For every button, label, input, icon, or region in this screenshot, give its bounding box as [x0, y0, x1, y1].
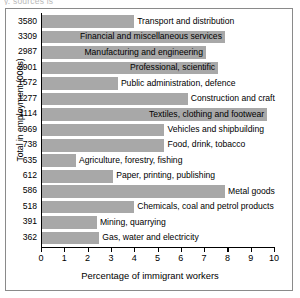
bar-row: 362Gas, water and electricity — [41, 230, 274, 245]
y-tick-label: 1572 — [18, 76, 37, 88]
bar — [41, 232, 99, 245]
y-tick-label: 391 — [23, 215, 37, 227]
bar — [41, 185, 225, 198]
bar-label: Food, drink, tobacco — [167, 138, 245, 151]
bar — [41, 93, 188, 106]
x-tick-mark — [274, 247, 275, 252]
figure: y. sources is Total in employment (000s)… — [0, 0, 300, 298]
y-tick-label: 586 — [23, 184, 37, 196]
x-tick-mark — [88, 247, 89, 252]
x-tick-label: 2 — [85, 253, 90, 263]
bar — [41, 15, 134, 28]
bar-label: Manufacturing and engineering — [84, 46, 203, 59]
y-axis-line — [41, 13, 42, 247]
plot-area: 3580Transport and distribution3309Financ… — [41, 14, 274, 246]
bar — [41, 216, 97, 229]
y-tick-label: 1277 — [18, 92, 37, 104]
bar — [41, 139, 164, 152]
bar-row: 391Mining, quarrying — [41, 215, 274, 230]
y-tick-label: 3309 — [18, 30, 37, 42]
x-tick-mark — [111, 247, 112, 252]
bar-label: Transport and distribution — [137, 15, 234, 28]
bar-label: Construction and craft — [191, 92, 275, 105]
bar-row: 3580Transport and distribution — [41, 14, 274, 29]
y-tick-label: 362 — [23, 231, 37, 243]
bar-label: Public administration, defence — [121, 77, 236, 90]
bar-row: 612Paper, printing, publishing — [41, 169, 274, 184]
x-axis-title: Percentage of immigrant workers — [0, 270, 300, 281]
x-tick-label: 7 — [202, 253, 207, 263]
bar-label: Mining, quarrying — [100, 216, 166, 229]
bar-label: Textiles, clothing and footwear — [149, 108, 264, 121]
bar-row: 635Agriculture, forestry, fishing — [41, 153, 274, 168]
bar-row: 969Vehicles and shipbuilding — [41, 122, 274, 137]
y-tick-label: 3580 — [18, 15, 37, 27]
x-tick-label: 6 — [178, 253, 183, 263]
x-tick-label: 3 — [108, 253, 113, 263]
bar-row: 1277Construction and craft — [41, 91, 274, 106]
bar-row: 1572Public administration, defence — [41, 76, 274, 91]
x-tick-label: 0 — [38, 253, 43, 263]
y-tick-label: 969 — [23, 123, 37, 135]
y-tick-label: 2987 — [18, 45, 37, 57]
x-tick-label: 8 — [225, 253, 230, 263]
x-tick-mark — [134, 247, 135, 252]
x-tick-label: 9 — [248, 253, 253, 263]
bar — [41, 77, 118, 90]
y-tick-label: 2901 — [18, 61, 37, 73]
bar-label: Chemicals, coal and petrol products — [137, 200, 274, 213]
bar-row: 518Chemicals, coal and petrol products — [41, 199, 274, 214]
bar-label: Vehicles and shipbuilding — [167, 123, 264, 136]
bar-label: Professional, scientific — [130, 61, 215, 74]
bar-row: 586Metal goods — [41, 184, 274, 199]
y-tick-label: 1114 — [19, 107, 37, 119]
x-tick-mark — [204, 247, 205, 252]
x-tick-mark — [181, 247, 182, 252]
bar-row: 3309Financial and miscellaneous services — [41, 29, 274, 44]
x-tick-mark — [64, 247, 65, 252]
bar-label: Financial and miscellaneous services — [80, 30, 222, 43]
y-tick-label: 635 — [23, 154, 37, 166]
caption-remnant: y. sources is — [4, 0, 134, 5]
y-tick-label: 738 — [23, 138, 37, 150]
bar — [41, 124, 164, 137]
bar-label: Agriculture, forestry, fishing — [79, 154, 182, 167]
bar-row: 2901Professional, scientific — [41, 60, 274, 75]
bar — [41, 201, 134, 214]
y-tick-label: 612 — [23, 169, 37, 181]
x-tick-mark — [251, 247, 252, 252]
x-tick-mark — [41, 247, 42, 252]
x-tick-label: 1 — [62, 253, 67, 263]
bar — [41, 170, 113, 183]
x-tick-label: 10 — [269, 253, 279, 263]
x-tick-mark — [227, 247, 228, 252]
bar-row: 738Food, drink, tobacco — [41, 138, 274, 153]
x-tick-label: 4 — [132, 253, 137, 263]
y-tick-label: 518 — [23, 200, 37, 212]
bar-label: Metal goods — [228, 185, 275, 198]
bar-row: 1114Textiles, clothing and footwear — [41, 107, 274, 122]
x-tick-mark — [158, 247, 159, 252]
bar-row: 2987Manufacturing and engineering — [41, 45, 274, 60]
bar-label: Gas, water and electricity — [102, 231, 198, 244]
bar — [41, 154, 76, 167]
bar-label: Paper, printing, publishing — [116, 169, 215, 182]
x-tick-label: 5 — [155, 253, 160, 263]
